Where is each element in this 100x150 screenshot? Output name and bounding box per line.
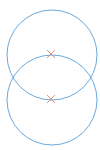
markers-group	[47, 50, 55, 103]
x-marker-icon	[47, 50, 55, 58]
circles-group	[7, 10, 97, 145]
x-marker-icon	[47, 95, 55, 103]
diagram-canvas	[0, 0, 100, 150]
